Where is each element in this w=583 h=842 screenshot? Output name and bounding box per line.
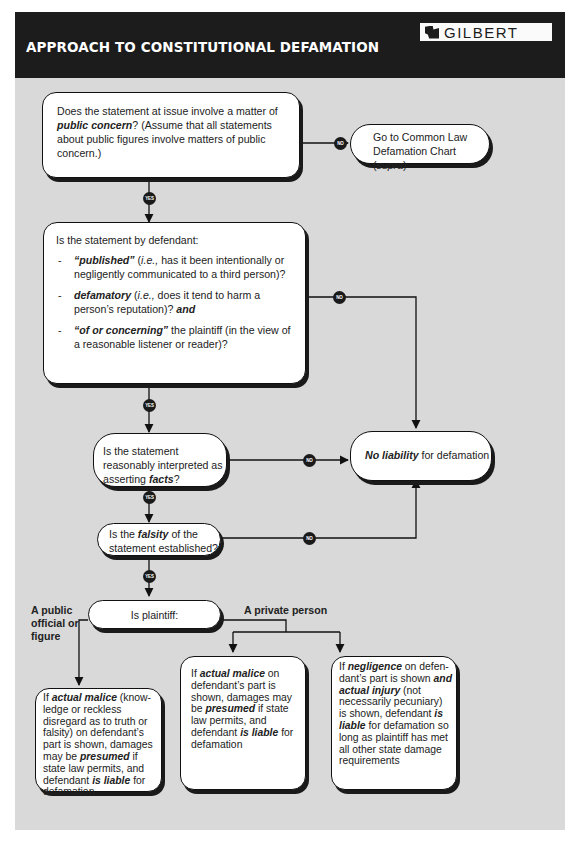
- question-plaintiff-type: Is plaintiff:: [88, 600, 221, 629]
- no-badge-q1: NO: [334, 137, 347, 150]
- question-public-concern: Does the statement at issue involve a ma…: [42, 92, 300, 178]
- yes-badge-q3: YES: [143, 491, 156, 504]
- branch-label-public: A public official or figure: [31, 604, 91, 643]
- question-falsity: Is the falsity of the statement establis…: [97, 523, 221, 556]
- question-statement-elements: Is the statement by defendant: “publishe…: [43, 222, 306, 384]
- emphasis: public concern: [57, 119, 132, 131]
- element-published: “published” (i.e., has it been intention…: [56, 253, 295, 281]
- result-private-negligence: If negligence on defen-dant’s part is sh…: [331, 656, 457, 790]
- result-common-law-chart: Go to Common Law Defamation Chart (supra…: [350, 124, 490, 164]
- result-no-liability: No liability for defamation: [350, 431, 492, 481]
- element-defamatory: defamatory (i.e., does it tend to harm a…: [56, 288, 295, 316]
- no-badge-q4: NO: [303, 532, 316, 545]
- yes-badge-q4: YES: [143, 570, 156, 583]
- no-badge-q2: NO: [333, 291, 346, 304]
- no-badge-q3: NO: [303, 454, 316, 467]
- yes-badge-q2: YES: [143, 399, 156, 412]
- branch-label-private: A private person: [244, 604, 327, 617]
- question-facts: Is the statement reasonably interpreted …: [93, 433, 227, 487]
- result-private-malice: If actual malice on defendant’s part is …: [180, 656, 306, 790]
- element-of-or-concerning: “of or concerning” the plaintiff (in the…: [56, 323, 295, 351]
- elements-list: “published” (i.e., has it been intention…: [56, 253, 295, 351]
- result-public-figure-malice: If actual malice (know-ledge or reckless…: [35, 688, 162, 792]
- yes-badge-q1: YES: [143, 192, 156, 205]
